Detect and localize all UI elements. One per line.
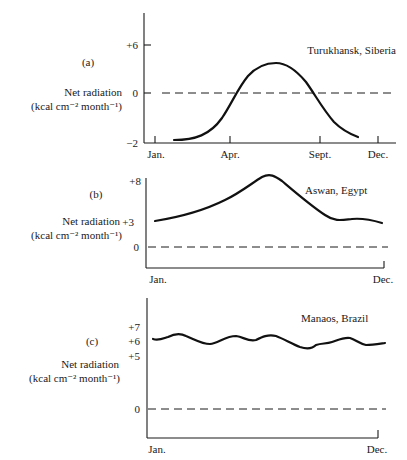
y-axis-units: (kcal cm⁻² month⁻¹) [31, 229, 122, 242]
panel-b: +8 +3 0 Jan. Dec. Aswan, Egypt (b) Net r… [31, 175, 393, 285]
panel-a: +6 0 −2 Jan. Apr. Sept. Dec. Turukhansk,… [31, 13, 396, 160]
y-tick-label: +7 [128, 321, 140, 333]
y-tick-label: −2 [126, 137, 138, 149]
y-tick-label: +6 [128, 335, 140, 347]
x-tick-label: Apr. [220, 148, 240, 160]
y-axis-units: (kcal cm⁻² month⁻¹) [31, 100, 122, 113]
y-tick-label: +6 [126, 39, 138, 51]
x-tick-label: Jan. [148, 443, 166, 455]
x-tick-label: Sept. [309, 148, 332, 160]
panel-letter: (c) [86, 335, 99, 348]
y-tick-label: +8 [129, 175, 141, 187]
station-label: Turukhansk, Siberia [307, 44, 396, 56]
station-label: Manaos, Brazil [301, 312, 368, 324]
panel-letter: (b) [90, 188, 103, 201]
panel-letter: (a) [82, 56, 95, 69]
figure: +6 0 −2 Jan. Apr. Sept. Dec. Turukhansk,… [0, 0, 407, 460]
x-tick-label: Jan. [149, 273, 167, 285]
y-tick-label: 0 [133, 87, 139, 99]
x-tick-label: Jan. [147, 148, 165, 160]
y-tick-label: +3 [122, 216, 134, 228]
y-axis-label: Net radiation [61, 358, 119, 370]
panel-c: +7 +6 +5 0 Jan. Dec. Manaos, Brazil (c) … [29, 298, 387, 455]
data-line [174, 63, 358, 140]
x-tick-label: Dec. [368, 148, 389, 160]
y-axis-label: Net radiation [64, 86, 122, 98]
data-line [155, 175, 382, 223]
station-label: Aswan, Egypt [305, 184, 367, 196]
y-axis-units: (kcal cm⁻² month⁻¹) [29, 372, 120, 385]
y-tick-label: 0 [134, 241, 140, 253]
x-tick-label: Dec. [367, 443, 388, 455]
y-axis-label: Net radiation [62, 215, 120, 227]
y-tick-label: +5 [128, 350, 140, 362]
x-tick-label: Dec. [373, 273, 394, 285]
y-tick-label: 0 [135, 403, 141, 415]
data-line [153, 334, 385, 348]
